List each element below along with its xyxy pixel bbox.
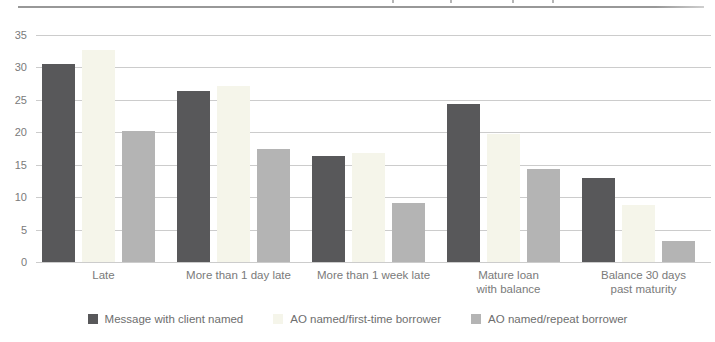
bar — [177, 91, 210, 262]
legend-item: AO named/repeat borrower — [471, 313, 627, 325]
bar-group — [441, 35, 576, 262]
cropped-text-fragment — [450, 0, 452, 3]
bar-group — [36, 35, 171, 262]
x-axis-label: Mature loan with balance — [441, 268, 576, 296]
plot-area: 05101520253035 — [36, 35, 711, 262]
bar — [662, 241, 695, 262]
bar-group — [171, 35, 306, 262]
legend-item: Message with client named — [88, 313, 244, 325]
x-axis-label: Balance 30 days past maturity — [576, 268, 711, 296]
legend-label: AO named/repeat borrower — [488, 313, 627, 325]
legend-label: AO named/first-time borrower — [290, 313, 441, 325]
bar — [82, 50, 115, 262]
y-tick-label: 30 — [15, 61, 27, 73]
chart-page: 05101520253035 LateMore than 1 day lateM… — [0, 0, 715, 342]
gridline — [36, 262, 711, 263]
x-axis-label: More than 1 day late — [171, 268, 306, 296]
header-rule — [18, 6, 704, 8]
y-tick-label: 5 — [21, 224, 27, 236]
legend-label: Message with client named — [105, 313, 244, 325]
bar — [527, 169, 560, 262]
x-axis-label: Late — [36, 268, 171, 296]
bar — [487, 134, 520, 262]
x-axis-label: More than 1 week late — [306, 268, 441, 296]
y-tick-label: 15 — [15, 159, 27, 171]
bar — [257, 149, 290, 262]
cropped-text-fragment — [512, 0, 514, 3]
legend-swatch — [88, 314, 98, 324]
legend-item: AO named/first-time borrower — [273, 313, 441, 325]
y-tick-label: 0 — [21, 256, 27, 268]
bar — [122, 131, 155, 262]
bar — [312, 156, 345, 262]
bars-layer — [36, 35, 711, 262]
bar — [42, 64, 75, 262]
chart-legend: Message with client namedAO named/first-… — [0, 313, 715, 325]
bar-group — [576, 35, 711, 262]
bar — [582, 178, 615, 262]
bar — [352, 153, 385, 262]
bar — [622, 205, 655, 262]
x-axis-labels: LateMore than 1 day lateMore than 1 week… — [36, 268, 711, 296]
bar — [447, 104, 480, 262]
bar-group — [306, 35, 441, 262]
bar — [392, 203, 425, 262]
bar — [217, 86, 250, 262]
cropped-text-fragment — [392, 0, 394, 3]
cropped-text-fragment — [552, 0, 554, 3]
legend-swatch — [273, 314, 283, 324]
y-tick-label: 20 — [15, 126, 27, 138]
y-tick-label: 35 — [15, 29, 27, 41]
y-tick-label: 10 — [15, 191, 27, 203]
legend-swatch — [471, 314, 481, 324]
y-tick-label: 25 — [15, 94, 27, 106]
